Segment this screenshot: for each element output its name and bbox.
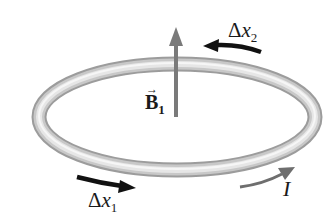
current-label: I [283,178,290,200]
magnetic-field-arrow [169,27,183,117]
vector-mark: → [146,83,158,95]
delta-symbol: Δ [88,188,102,212]
x-variable: x [102,188,111,212]
field-label: →B1 [145,92,165,112]
dx2-subscript: 2 [251,30,258,45]
dx1-subscript: 1 [111,200,118,215]
delta-symbol: Δ [228,18,242,42]
field-subscript: 1 [158,102,165,117]
current-loop-diagram: →B1 Δx2 Δx1 I [0,0,335,220]
dx2-label: Δx2 [228,20,257,41]
x-variable: x [242,18,251,42]
dx1-label: Δx1 [88,190,117,211]
